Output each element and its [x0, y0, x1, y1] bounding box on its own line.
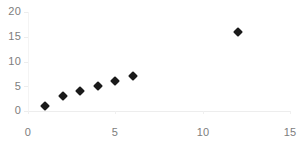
x-axis-tick — [115, 111, 116, 114]
data-point — [58, 91, 68, 101]
x-axis-tick — [290, 111, 291, 114]
x-axis-tick-label: 10 — [188, 127, 218, 138]
y-axis-tick-label: 10 — [1, 56, 21, 67]
y-axis-tick-label: 5 — [1, 81, 21, 92]
data-point — [110, 76, 120, 86]
x-axis-tick-label: 0 — [13, 127, 43, 138]
y-axis-tick — [24, 62, 28, 63]
data-point — [233, 27, 243, 37]
data-point — [93, 81, 103, 91]
x-axis-tick-label: 5 — [100, 127, 130, 138]
x-axis-tick — [28, 111, 29, 114]
x-axis-line — [28, 111, 290, 112]
plot-area: 20 15 10 5 0 0 5 10 15 — [0, 0, 301, 147]
data-point — [128, 71, 138, 81]
y-axis-tick-label: 0 — [1, 105, 21, 116]
y-axis-tick-label: 20 — [1, 6, 21, 17]
y-axis-tick — [24, 12, 28, 13]
x-axis-tick — [203, 111, 204, 114]
y-axis-tick — [24, 37, 28, 38]
scatter-chart: 20 15 10 5 0 0 5 10 15 — [0, 0, 301, 147]
data-point — [41, 101, 51, 111]
y-axis-tick-label: 15 — [1, 31, 21, 42]
y-axis-tick — [24, 86, 28, 87]
data-point — [75, 86, 85, 96]
x-axis-tick-label: 15 — [275, 127, 301, 138]
